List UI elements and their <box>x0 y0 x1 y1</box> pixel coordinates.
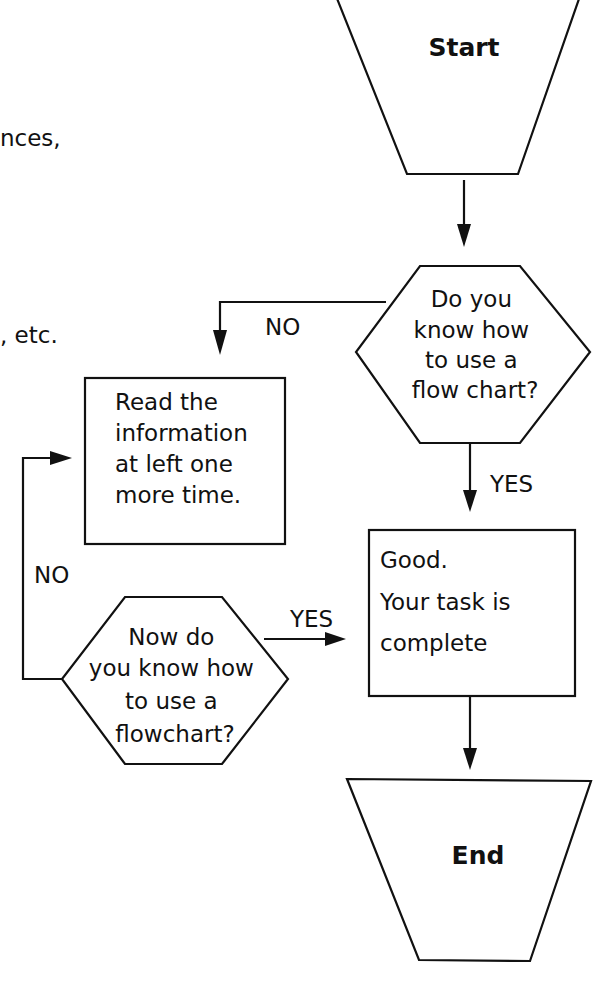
edge-label-no-2: NO <box>34 562 69 588</box>
start-node: Start <box>336 0 580 174</box>
arrow-down-icon <box>213 330 227 355</box>
start-trapezoid-shape <box>336 0 580 174</box>
arrow-decision2-yes: YES <box>264 606 346 646</box>
decision-1-node: Do you know how to use a flow chart? <box>356 266 590 443</box>
arrow-down-icon <box>457 224 471 247</box>
arrow-right-icon <box>325 632 346 646</box>
edge-label-yes-2: YES <box>289 606 333 632</box>
edge-label-no-1: NO <box>265 314 300 340</box>
reread-process-node: Read the information at left one more ti… <box>85 378 285 544</box>
flowchart: Start Do you know how to use a flow char… <box>0 0 598 985</box>
good-process-node: Good. Your task is complete <box>369 530 575 696</box>
start-label: Start <box>428 33 499 62</box>
arrow-down-icon <box>463 490 477 512</box>
arrow-right-icon <box>50 451 72 465</box>
arrow-decision2-no: NO <box>23 451 72 679</box>
arrow-down-icon <box>463 748 477 770</box>
arrow-good-to-end <box>463 696 477 770</box>
end-trapezoid-shape <box>347 779 591 961</box>
end-label: End <box>452 841 505 870</box>
end-node: End <box>347 779 591 961</box>
edge-label-yes-1: YES <box>489 471 533 497</box>
decision-2-node: Now do you know how to use a flowchart? <box>62 597 288 764</box>
arrow-decision1-yes: YES <box>463 443 533 512</box>
arrow-start-to-decision1 <box>457 180 471 247</box>
